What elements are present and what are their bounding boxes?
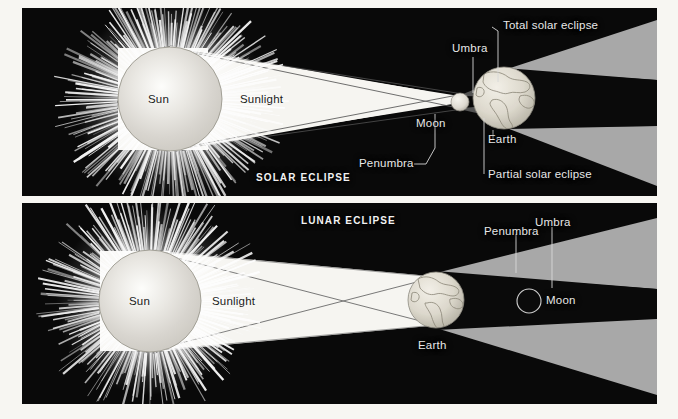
solar-total-label: Total solar eclipse xyxy=(503,20,598,32)
solar-sunlight-label: Sunlight xyxy=(240,94,283,106)
lunar-sunlight-label: Sunlight xyxy=(212,296,255,308)
solar-umbra-label: Umbra xyxy=(452,43,488,55)
solar-earth-label: Earth xyxy=(488,134,517,146)
solar-partial-label: Partial solar eclipse xyxy=(488,169,592,181)
lunar-penumbra-label: Penumbra xyxy=(484,226,539,238)
solar-moon-label: Moon xyxy=(416,118,446,130)
lunar-moon-label: Moon xyxy=(546,295,576,307)
lunar-eclipse-title: LUNAR ECLIPSE xyxy=(301,216,396,226)
lunar-eclipse-panel: LUNAR ECLIPSE Sun Sunlight Penumbra Umbr… xyxy=(22,203,657,404)
solar-penumbra-label: Penumbra xyxy=(359,158,414,170)
solar-eclipse-panel: Sun Sunlight Umbra Total solar eclipse M… xyxy=(22,8,657,196)
lunar-sun-label: Sun xyxy=(129,296,150,308)
lunar-umbra-label: Umbra xyxy=(535,217,571,229)
solar-eclipse-title: SOLAR ECLIPSE xyxy=(256,173,351,183)
eclipse-diagram: Sun Sunlight Umbra Total solar eclipse M… xyxy=(0,0,678,419)
solar-sun-label: Sun xyxy=(148,94,169,106)
lunar-earth-label: Earth xyxy=(418,340,447,352)
